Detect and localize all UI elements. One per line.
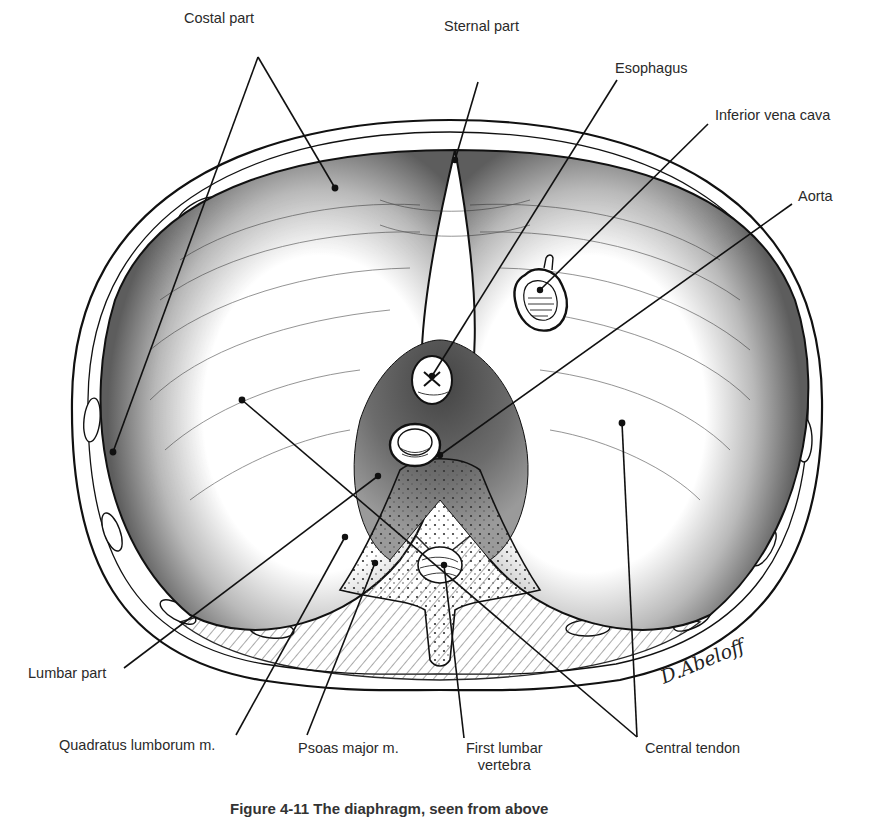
label-costal-part: Costal part <box>184 10 254 27</box>
label-psoas-major: Psoas major m. <box>298 740 399 757</box>
label-lumbar-part: Lumbar part <box>28 665 106 682</box>
aorta <box>390 424 440 466</box>
label-first-lumbar-vertebra: First lumbar vertebra <box>466 740 543 774</box>
esophagus <box>412 356 452 404</box>
label-esophagus: Esophagus <box>615 60 688 77</box>
label-first-lumbar-line1: First lumbar <box>466 740 543 757</box>
label-central-tendon: Central tendon <box>645 740 740 757</box>
label-sternal-part: Sternal part <box>444 18 519 35</box>
label-aorta: Aorta <box>798 188 833 205</box>
label-first-lumbar-line2: vertebra <box>466 757 543 774</box>
figure-caption: Figure 4-11 The diaphragm, seen from abo… <box>230 800 548 817</box>
label-inferior-vena-cava: Inferior vena cava <box>715 107 830 124</box>
label-quadratus-lumborum: Quadratus lumborum m. <box>59 737 215 754</box>
